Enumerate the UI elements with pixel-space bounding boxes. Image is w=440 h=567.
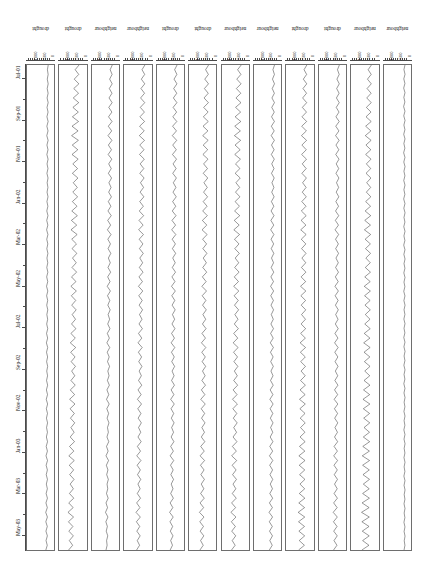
chart-panel: [383, 64, 412, 551]
rotated-figure: Jul-01Sep-01Nov-01Jan-02Mar-02May-02Jul-…: [0, 0, 440, 567]
value-axis-tick-label: 1000: [324, 51, 329, 60]
chart-panel: [26, 64, 55, 551]
panel-series: [27, 65, 54, 550]
value-axis-tick: [30, 58, 31, 61]
value-axis-tick: [276, 58, 277, 61]
chart-panel: [285, 64, 314, 551]
value-axis-tick: [339, 58, 340, 61]
date-axis-tick-label: Jul-01: [15, 66, 21, 79]
value-axis-tick: [212, 58, 213, 61]
value-axis-tick: [331, 58, 332, 61]
date-axis-tick-label: Jan-02: [15, 189, 21, 203]
panel-value-axis: 05001000: [253, 27, 282, 61]
value-axis-tick-label: 500: [204, 53, 209, 60]
value-axis-tick-label: 500: [74, 53, 79, 60]
value-axis-tick: [309, 58, 310, 61]
panel-series: [124, 65, 151, 550]
value-axis-tick: [60, 58, 61, 61]
value-axis-tick-label: 0: [213, 55, 218, 57]
shared-date-axis: Jul-01Sep-01Nov-01Jan-02Mar-02May-02Jul-…: [0, 64, 26, 551]
value-axis-tick: [289, 58, 290, 61]
chart-panel: [253, 64, 282, 551]
value-axis-tick: [322, 58, 323, 61]
date-axis-tick-label: Nov-01: [15, 146, 21, 162]
date-axis-minor-tick: [23, 535, 26, 536]
panel-series: [319, 65, 346, 550]
value-axis-tick: [80, 58, 81, 61]
panel-series: [351, 65, 378, 550]
value-axis-tick-label: 500: [236, 53, 241, 60]
panel-category-label: neighbour: [91, 6, 120, 32]
value-axis-tick-label: 500: [106, 53, 111, 60]
value-axis-tick: [354, 58, 355, 61]
date-axis-line: [25, 64, 26, 551]
panel-category-label: drought: [58, 6, 87, 32]
value-axis-tick: [387, 58, 388, 61]
value-axis-tick: [242, 58, 243, 61]
value-axis-tick: [274, 58, 275, 61]
value-axis-tick-label: 1000: [260, 51, 265, 60]
value-axis-tick: [71, 58, 72, 61]
value-axis-tick: [257, 58, 258, 61]
value-axis-tick: [39, 58, 40, 61]
value-axis-tick-label: 500: [42, 53, 47, 60]
value-axis-tick: [287, 58, 288, 61]
panel-category-label: neighbour: [123, 6, 152, 32]
value-axis-tick: [136, 58, 137, 61]
value-axis-tick-label: 500: [139, 53, 144, 60]
date-axis-minor-tick: [23, 78, 26, 79]
date-axis-tick-label: Jul-02: [15, 315, 21, 328]
panel-value-axis: 05001000: [383, 27, 412, 61]
panel-value-axis: 05001000: [350, 27, 379, 61]
value-axis-tick: [168, 58, 169, 61]
panel-value-axis: 05001000: [123, 27, 152, 61]
value-axis-tick: [112, 58, 113, 61]
date-axis-minor-tick: [23, 327, 26, 328]
value-axis-tick: [47, 58, 48, 61]
value-axis-tick: [352, 58, 353, 61]
panel-value-axis: 05001000: [156, 27, 185, 61]
date-axis-minor-tick: [23, 265, 26, 266]
value-axis-tick-label: 0: [277, 55, 282, 57]
date-axis-tick-label: Jan-03: [15, 439, 21, 453]
panel-value-axis: 05001000: [26, 27, 55, 61]
value-axis-tick-label: 1000: [65, 51, 70, 60]
value-axis-tick: [374, 58, 375, 61]
date-axis-minor-tick: [23, 161, 26, 162]
date-axis-minor-tick: [23, 431, 26, 432]
value-axis-tick: [372, 58, 373, 61]
value-axis-tick: [341, 58, 342, 61]
value-axis-tick: [63, 58, 64, 61]
date-axis-minor-tick: [23, 307, 26, 308]
value-axis-tick: [160, 58, 161, 61]
chart-panel: [350, 64, 379, 551]
chart-panel: [221, 64, 250, 551]
value-axis-tick: [244, 58, 245, 61]
value-axis-tick: [298, 58, 299, 61]
date-axis-minor-tick: [23, 348, 26, 349]
value-axis-tick: [201, 58, 202, 61]
value-axis-tick-label: 1000: [357, 51, 362, 60]
value-axis-tick: [127, 58, 128, 61]
date-axis-minor-tick: [23, 99, 26, 100]
panel-category-label: drought: [156, 6, 185, 32]
value-axis-tick: [406, 58, 407, 61]
value-axis-tick-label: 0: [310, 55, 315, 57]
value-axis-tick-label: 1000: [292, 51, 297, 60]
value-axis-tick: [307, 58, 308, 61]
date-axis-tick-label: Sep-01: [15, 105, 21, 120]
panel-value-axis: 05001000: [58, 27, 87, 61]
chart-panel: [318, 64, 347, 551]
value-axis-tick: [114, 58, 115, 61]
value-axis-tick: [177, 58, 178, 61]
value-axis-tick: [192, 58, 193, 61]
value-axis-tick: [385, 58, 386, 61]
value-axis-tick-label: 500: [366, 53, 371, 60]
value-axis-tick: [82, 58, 83, 61]
value-axis-tick-label: 1000: [33, 51, 38, 60]
panel-value-axis: 05001000: [318, 27, 347, 61]
value-axis-tick: [50, 58, 51, 61]
value-axis-tick-label: 0: [375, 55, 380, 57]
trellis-plot-area: [26, 64, 412, 551]
chart-panel: [123, 64, 152, 551]
